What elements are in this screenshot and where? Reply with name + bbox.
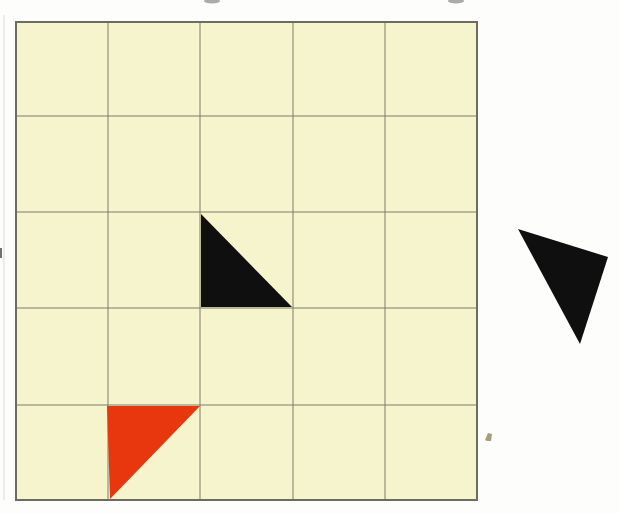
figure-svg [0, 0, 619, 513]
scanned-puzzle-page [0, 0, 619, 513]
left-edge-dash [0, 248, 2, 258]
